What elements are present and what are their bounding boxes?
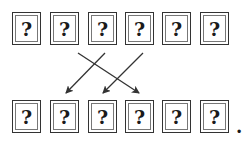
bottom-cell-6: ? xyxy=(200,100,229,133)
bottom-cell-2: ? xyxy=(50,100,79,133)
trailing-period: . xyxy=(236,116,242,137)
bottom-cell-5: ? xyxy=(162,100,191,133)
bottom-cell-4: ? xyxy=(125,100,154,133)
arrow-down-left-icon xyxy=(66,53,105,93)
bottom-cell-1: ? xyxy=(12,100,41,133)
bottom-cell-3: ? xyxy=(88,100,117,133)
